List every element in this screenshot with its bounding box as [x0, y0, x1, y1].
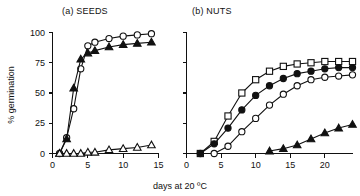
marker-filled-circle	[336, 64, 342, 70]
marker-filled-triangle	[307, 135, 315, 142]
y-tick-label-100: 100	[30, 28, 45, 38]
y-tick-label-25: 25	[35, 118, 45, 128]
figure-svg: (a) SEEDS % germination 100 75 50 25 0	[0, 0, 360, 196]
marker-open-circle	[349, 72, 355, 78]
x-tick-label-a-0: 0	[50, 160, 55, 170]
marker-filled-triangle	[148, 38, 156, 45]
marker-open-circle	[120, 33, 126, 39]
marker-filled-triangle	[293, 141, 301, 148]
x-tick-label-b-5: 5	[219, 160, 224, 170]
y-tick-label-75: 75	[35, 58, 45, 68]
marker-open-square	[280, 63, 286, 69]
marker-filled-triangle	[349, 121, 357, 128]
marker-open-circle	[322, 74, 328, 80]
marker-open-square	[294, 61, 300, 67]
marker-open-square	[349, 58, 355, 64]
marker-open-circle	[308, 77, 314, 83]
marker-open-circle	[106, 35, 112, 41]
marker-filled-circle	[266, 83, 272, 89]
marker-open-square	[308, 60, 314, 66]
marker-filled-circle	[322, 66, 328, 72]
panel-b-nuts: (b) NUTS 0 5 10 15	[183, 6, 357, 170]
marker-open-circle	[280, 91, 286, 97]
panel-a-y-tick-labels: 100 75 50 25 0	[30, 28, 45, 159]
marker-filled-triangle	[70, 84, 78, 91]
marker-filled-circle	[308, 68, 314, 74]
marker-open-circle	[148, 31, 154, 37]
marker-filled-circle	[211, 141, 217, 147]
x-tick-label-b-15: 15	[285, 160, 295, 170]
marker-open-circle	[239, 129, 245, 135]
marker-open-circle	[134, 32, 140, 38]
x-tick-label-b-10: 10	[251, 160, 261, 170]
x-tick-label-a-15: 15	[153, 160, 163, 170]
panel-b-series-group	[197, 58, 356, 156]
series-line-open-circle	[214, 75, 352, 154]
marker-open-triangle	[148, 141, 156, 148]
germination-figure: (a) SEEDS % germination 100 75 50 25 0	[0, 0, 360, 196]
series-filled-triangle	[56, 38, 155, 156]
x-tick-label-b-20: 20	[320, 160, 330, 170]
marker-open-square	[225, 113, 231, 119]
marker-open-circle	[211, 150, 217, 156]
series-line-open-square	[200, 62, 352, 154]
series-line-filled-triangle	[60, 42, 152, 153]
panel-b-x-ticks	[187, 154, 325, 158]
marker-open-circle	[85, 43, 91, 49]
marker-open-circle	[294, 83, 300, 89]
panel-a-title: (a) SEEDS	[62, 6, 108, 16]
marker-open-square	[322, 58, 328, 64]
marker-open-square	[253, 77, 259, 83]
panel-a-x-tick-labels: 0 5 10 15	[50, 160, 164, 170]
y-axis-label: % germination	[6, 66, 16, 124]
panel-b-title: (b) NUTS	[192, 6, 232, 16]
marker-open-circle	[92, 39, 98, 45]
marker-open-circle	[336, 73, 342, 79]
marker-filled-circle	[197, 150, 203, 156]
marker-open-square	[336, 58, 342, 64]
marker-filled-circle	[239, 107, 245, 113]
series-open-square	[197, 58, 355, 156]
series-line-filled-circle	[200, 68, 352, 154]
x-tick-label-a-10: 10	[118, 160, 128, 170]
marker-filled-circle	[280, 75, 286, 81]
y-tick-label-50: 50	[35, 88, 45, 98]
x-tick-label-b-0: 0	[184, 160, 189, 170]
panel-a-y-ticks	[49, 33, 53, 154]
panel-b-y-ticks	[183, 33, 187, 154]
y-tick-label-0: 0	[40, 149, 45, 159]
marker-open-square	[239, 90, 245, 96]
marker-open-circle	[225, 143, 231, 149]
marker-open-circle	[266, 102, 272, 108]
panel-a-seeds: (a) SEEDS % germination 100 75 50 25 0	[6, 6, 164, 170]
panel-b-x-tick-labels: 0 5 10 15 20	[184, 160, 330, 170]
panel-a-series-group	[56, 31, 155, 157]
x-axis-caption: days at 20 ºC	[153, 181, 207, 191]
series-filled-circle	[197, 64, 355, 156]
marker-filled-circle	[253, 92, 259, 98]
marker-open-square	[266, 68, 272, 74]
series-filled-triangle	[266, 121, 357, 154]
marker-filled-circle	[225, 125, 231, 131]
marker-filled-circle	[349, 64, 355, 70]
marker-filled-circle	[294, 71, 300, 77]
marker-open-circle	[253, 115, 259, 121]
x-tick-label-a-5: 5	[85, 160, 90, 170]
